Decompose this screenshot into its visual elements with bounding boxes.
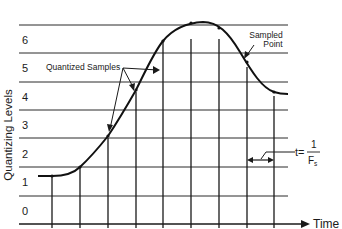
level-labels: 0 1 2 3 4 5 6 [22,34,28,217]
arrow-right-icon [301,220,310,228]
svg-text:2: 2 [22,148,28,160]
arrow-right-icon [268,157,274,163]
svg-text:Quantized Samples: Quantized Samples [46,62,120,72]
svg-text:1: 1 [22,176,28,188]
quantization-diagram: Time 0 1 2 3 4 5 6 Quantizing Levels [0,0,342,229]
svg-text:0: 0 [22,205,28,217]
arrow-icon [153,66,160,74]
arrow-icon [129,83,135,91]
y-axis-label: Quantizing Levels [2,89,14,181]
svg-text:4: 4 [22,91,28,103]
quantized-samples-annotation: Quantized Samples [46,62,160,132]
svg-text:5: 5 [22,62,28,74]
svg-text:s: s [314,160,318,167]
time-axis: Time [19,217,340,229]
svg-text:3: 3 [22,119,28,131]
arrow-left-icon [247,157,253,163]
sampled-point-annotation: Sampled Point [244,30,283,59]
svg-text:t=: t= [295,146,304,158]
time-axis-label: Time [313,217,340,229]
svg-text:Point: Point [263,39,283,49]
sample-period-annotation: t= 1 F s [247,139,320,167]
svg-text:1: 1 [311,139,317,150]
svg-text:6: 6 [22,34,28,46]
